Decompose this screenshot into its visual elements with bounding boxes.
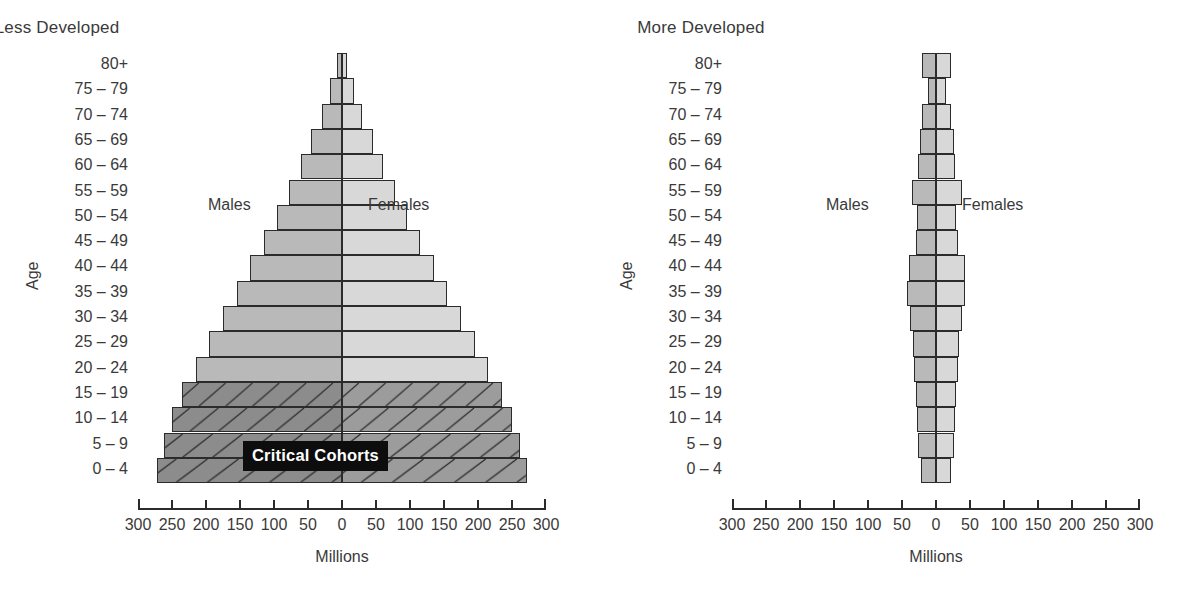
bar-female [342,382,502,407]
series-label-males-left: Males [208,196,251,214]
x-axis-tick [969,500,971,510]
x-axis-tick [901,500,903,510]
x-axis-end-cap [544,499,546,510]
x-axis-tick [799,500,801,510]
critical-cohorts-callout: Critical Cohorts [243,441,388,471]
bar-female [936,129,954,154]
bar-male [237,281,342,306]
x-axis-tick-label: 200 [465,516,492,534]
bar-male [196,357,342,382]
bar-female [936,255,965,280]
x-axis-tick [205,500,207,510]
x-axis-tick-label: 300 [719,516,746,534]
plot-area-more-developed: 30025020015010050050100150200250300 [594,0,1188,601]
bar-male [330,78,342,103]
x-axis-tick [1003,500,1005,510]
x-axis-tick-label: 250 [159,516,186,534]
chart-panel-less-developed: Less Developed Age 80+75 – 7970 – 7465 –… [0,0,594,601]
x-axis-tick [867,500,869,510]
plot-area-less-developed: 30025020015010050050100150200250300 [0,0,594,601]
x-axis-tick [443,500,445,510]
bar-female [936,306,962,331]
x-axis-tick-label: 50 [367,516,385,534]
x-axis-tick-label: 150 [821,516,848,534]
x-axis-tick [171,500,173,510]
bar-female [342,306,461,331]
x-axis-tick-label: 0 [932,516,941,534]
x-axis-tick [307,500,309,510]
bar-female [936,78,946,103]
bar-female [342,281,447,306]
x-axis-tick-label: 200 [787,516,814,534]
x-axis-tick-label: 250 [753,516,780,534]
x-axis-tick-label: 50 [893,516,911,534]
x-axis-tick [765,500,767,510]
x-axis-tick [273,500,275,510]
bar-female [936,331,959,356]
x-axis-title-left: Millions [315,548,368,566]
x-axis-end-cap [1138,499,1140,510]
x-axis-end-cap [732,499,734,510]
x-axis-tick [375,500,377,510]
bar-male [922,53,936,78]
bar-male [917,205,936,230]
bar-male [916,382,936,407]
bar-male [918,154,936,179]
bar-male [264,230,342,255]
bar-male [909,255,936,280]
diagonal-hatch-pattern [183,383,341,406]
bar-male [913,331,936,356]
bar-female [342,230,420,255]
bar-female [936,53,951,78]
bar-male [289,180,342,205]
bar-female [342,53,347,78]
x-axis-tick [1037,500,1039,510]
bar-male [223,306,342,331]
bar-female [342,129,373,154]
bar-male [209,331,342,356]
bar-male [914,357,936,382]
x-axis-tick-label: 300 [1127,516,1154,534]
bar-male [182,382,342,407]
x-axis-tick-label: 100 [261,516,288,534]
x-axis-end-cap [138,499,140,510]
x-axis-tick-label: 150 [227,516,254,534]
bar-female [936,180,962,205]
bar-female [342,407,512,432]
x-axis-tick-label: 50 [299,516,317,534]
x-axis-tick-label: 300 [533,516,560,534]
bar-male [912,180,936,205]
series-label-females-right: Females [962,196,1023,214]
bar-female [936,205,956,230]
figure-root: Less Developed Age 80+75 – 7970 – 7465 –… [0,0,1188,601]
x-axis-tick [833,500,835,510]
bar-male [907,281,936,306]
center-axis-line [935,53,937,483]
bar-male [918,433,936,458]
bar-female [342,154,383,179]
x-axis-tick-label: 100 [991,516,1018,534]
bar-female [936,154,955,179]
bar-female [342,104,362,129]
chart-panel-more-developed: More Developed Age 80+75 – 7970 – 7465 –… [594,0,1188,601]
x-axis-tick-label: 100 [855,516,882,534]
x-axis-tick-label: 100 [397,516,424,534]
bar-female [936,281,965,306]
bar-female [936,357,958,382]
x-axis-tick [477,500,479,510]
bar-female [936,382,956,407]
bar-male [910,306,936,331]
bar-female [936,230,958,255]
x-axis-tick [409,500,411,510]
x-axis-tick [935,500,937,510]
bar-female [936,104,951,129]
bar-male [277,205,342,230]
center-axis-line [341,53,343,483]
x-axis-tick [1105,500,1107,510]
x-axis-tick-label: 250 [499,516,526,534]
bar-female [342,357,488,382]
diagonal-hatch-pattern [343,383,501,406]
bar-male [921,458,936,483]
bar-female [342,331,475,356]
diagonal-hatch-pattern [343,408,511,431]
